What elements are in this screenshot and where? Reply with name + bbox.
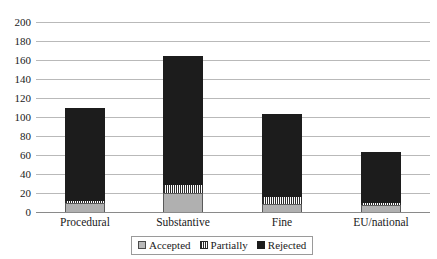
- y-tick-label: 60: [0, 150, 31, 161]
- segment-rejected: [361, 152, 401, 202]
- segment-partially: [163, 185, 203, 193]
- chart-legend: Accepted Partially Rejected: [131, 236, 313, 255]
- stacked-bar[interactable]: [163, 56, 203, 212]
- legend-item-accepted[interactable]: Accepted: [138, 239, 191, 251]
- x-tick-label-fine: Fine: [233, 215, 331, 229]
- bars-layer: [36, 22, 430, 212]
- bar-group-fine: [233, 22, 331, 212]
- segment-rejected: [163, 56, 203, 185]
- legend-item-partially[interactable]: Partially: [200, 239, 248, 251]
- stacked-bar[interactable]: [361, 152, 401, 212]
- segment-partially: [262, 197, 302, 205]
- y-tick-label: 20: [0, 188, 31, 199]
- x-tick-label-substantive: Substantive: [134, 215, 232, 229]
- x-tick-label-eu-national: EU/national: [332, 215, 430, 229]
- bar-group-procedural: [36, 22, 134, 212]
- legend-label: Partially: [211, 239, 248, 251]
- legend-label: Accepted: [149, 239, 191, 251]
- y-tick-label: 120: [0, 93, 31, 104]
- y-tick-label: 180: [0, 36, 31, 47]
- y-tick-label: 40: [0, 169, 31, 180]
- segment-accepted: [163, 193, 203, 212]
- stacked-bar[interactable]: [262, 114, 302, 212]
- bar-group-eu-national: [332, 22, 430, 212]
- segment-accepted: [361, 205, 401, 212]
- y-tick-label: 0: [0, 207, 31, 218]
- segment-accepted: [262, 204, 302, 212]
- segment-accepted: [65, 203, 105, 213]
- accepted-swatch-icon: [138, 241, 146, 249]
- stacked-bar[interactable]: [65, 108, 105, 213]
- y-tick-label: 160: [0, 55, 31, 66]
- segment-rejected: [65, 108, 105, 201]
- y-tick-label: 200: [0, 17, 31, 28]
- y-tick-label: 100: [0, 112, 31, 123]
- y-tick-label: 80: [0, 131, 31, 142]
- rejected-swatch-icon: [257, 241, 265, 249]
- legend-item-rejected[interactable]: Rejected: [257, 239, 306, 251]
- legend-label: Rejected: [268, 239, 306, 251]
- axis-baseline: [36, 212, 430, 213]
- x-tick-label-procedural: Procedural: [36, 215, 134, 229]
- stacked-bar-chart: 200 180 160 140 120 100 80 60 40 20 0: [0, 0, 437, 259]
- partially-swatch-icon: [200, 241, 208, 249]
- y-tick-label: 140: [0, 74, 31, 85]
- segment-rejected: [262, 114, 302, 197]
- bar-group-substantive: [134, 22, 232, 212]
- x-axis-labels: Procedural Substantive Fine EU/national: [36, 215, 430, 233]
